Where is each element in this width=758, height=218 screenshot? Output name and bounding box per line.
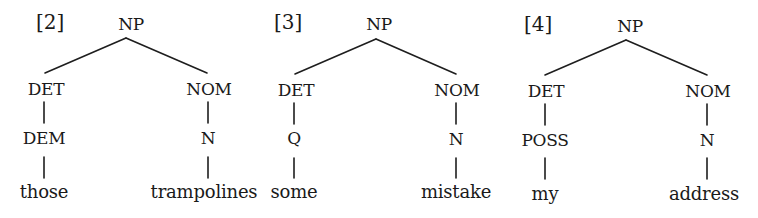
node-q: Q [287, 130, 301, 147]
node-poss: POSS [521, 132, 568, 149]
node-np: NP [118, 16, 144, 33]
node-n: N [201, 130, 216, 147]
leaf-word: address [669, 185, 739, 203]
node-np: NP [366, 16, 392, 33]
tree-3-branches [294, 39, 456, 178]
leaf-word: mistake [421, 183, 491, 201]
node-nom: NOM [685, 83, 730, 100]
node-det: DET [528, 83, 564, 100]
leaf-word: those [20, 183, 69, 201]
example-number: [4] [524, 14, 552, 34]
example-number: [2] [36, 12, 64, 32]
leaf-word: trampolines [151, 183, 258, 201]
node-np: NP [617, 18, 643, 35]
leaf-word: my [532, 185, 559, 203]
syntax-trees-figure: [2] NP DET DEM those NOM N trampolines [… [0, 0, 758, 218]
leaf-word: some [271, 183, 318, 201]
node-det: DET [278, 82, 314, 99]
node-nom: NOM [186, 81, 231, 98]
tree-4-branches [545, 40, 707, 179]
node-nom: NOM [434, 82, 479, 99]
node-dem: DEM [23, 130, 66, 147]
node-det: DET [28, 81, 64, 98]
node-n: N [449, 131, 464, 148]
tree-2-branches [44, 38, 208, 178]
example-number: [3] [274, 12, 302, 32]
node-n: N [700, 132, 715, 149]
